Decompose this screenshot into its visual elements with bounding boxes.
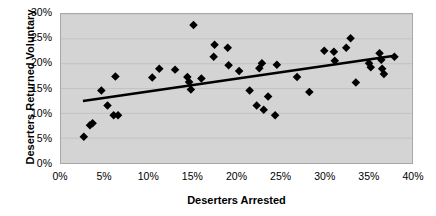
x-axis-title: Deserters Arrested bbox=[60, 194, 413, 206]
x-tick-label: 30% bbox=[305, 170, 345, 182]
scatter-chart: Deserters Returned Voluntary 0%5%10%15%2… bbox=[0, 0, 436, 216]
x-tick-label: 10% bbox=[128, 170, 168, 182]
x-tick-label: 25% bbox=[261, 170, 301, 182]
x-tick-label: 35% bbox=[349, 170, 389, 182]
x-tick-label: 20% bbox=[217, 170, 257, 182]
x-tick-label: 5% bbox=[84, 170, 124, 182]
x-tick-label: 40% bbox=[393, 170, 433, 182]
x-tick-label: 15% bbox=[172, 170, 212, 182]
x-tick-label: 0% bbox=[40, 170, 80, 182]
x-axis-tick-labels: 0%5%10%15%20%25%30%35%40% bbox=[0, 0, 436, 216]
